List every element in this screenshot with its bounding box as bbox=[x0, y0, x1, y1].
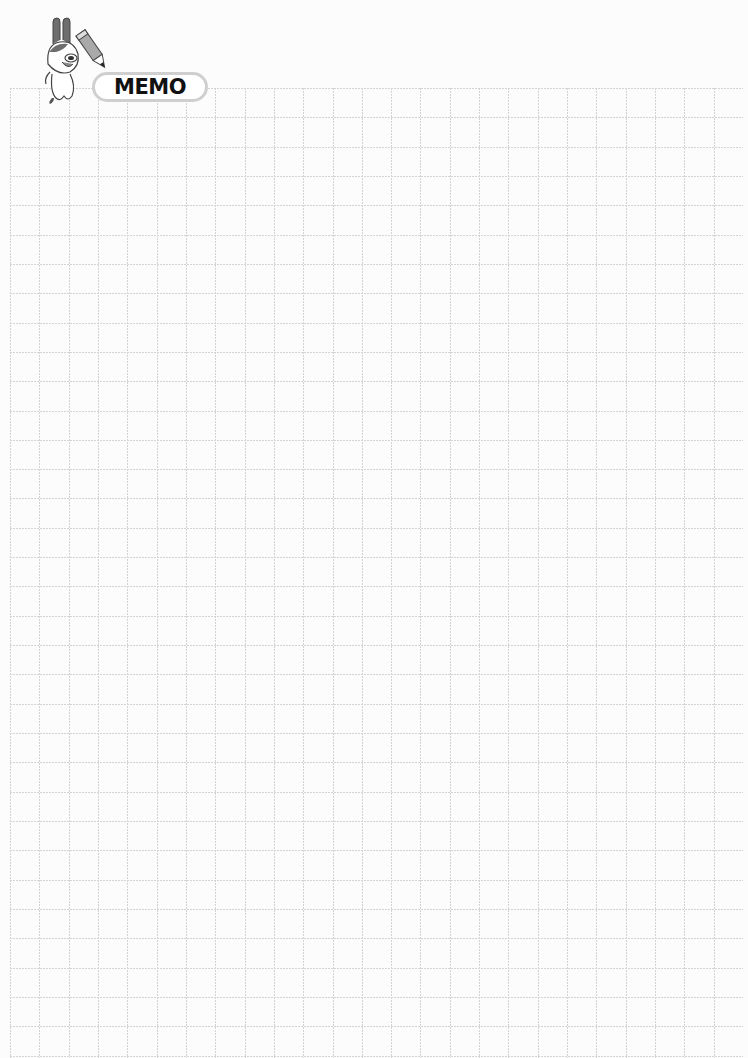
memo-title: MEMO bbox=[114, 75, 186, 99]
graph-paper-grid bbox=[10, 88, 743, 1058]
memo-page: MEMO bbox=[0, 0, 748, 1058]
grid-lines bbox=[10, 88, 743, 1058]
memo-badge: MEMO bbox=[92, 72, 208, 102]
